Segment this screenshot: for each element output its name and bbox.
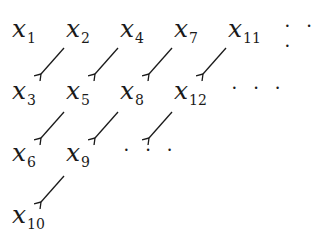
arrow-down-left-icon xyxy=(149,112,172,138)
arrow-down-left-icon xyxy=(41,48,64,74)
diagonal-arrows xyxy=(0,0,323,236)
diagonal-enumeration-diagram: x1 x2 x4 x7 x11 · · · x3 x5 x8 x12 · · ·… xyxy=(0,0,323,236)
arrow-down-left-icon xyxy=(203,48,226,74)
arrow-down-left-icon xyxy=(149,48,172,74)
arrow-down-left-icon xyxy=(41,176,64,202)
arrow-down-left-icon xyxy=(41,112,64,138)
arrow-down-left-icon xyxy=(95,48,118,74)
arrow-down-left-icon xyxy=(95,112,118,138)
